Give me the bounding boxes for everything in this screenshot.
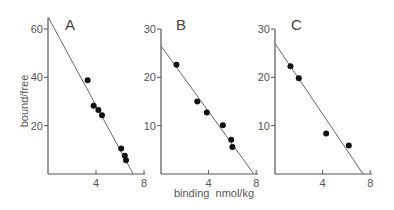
panel-a-x-tick-label: 4 <box>93 177 99 189</box>
y-axis-label: bound/free <box>18 75 30 128</box>
panel-c-x-tick-label: 8 <box>367 177 373 189</box>
panel-b-y-tick-label: 30 <box>144 23 156 35</box>
panel-a-y-tick-label: 60 <box>31 23 43 35</box>
panel-b-data-point <box>229 144 235 150</box>
panel-a-data-point <box>95 107 101 113</box>
panel-b-x-tick-label: 4 <box>206 177 212 189</box>
panel-b-data-point <box>194 99 200 105</box>
panel-c-y-tick-label: 10 <box>258 120 270 132</box>
panel-b-data-point <box>228 137 234 143</box>
panel-b-x-tick-label: 8 <box>253 177 259 189</box>
panel-c-data-point <box>287 63 293 69</box>
panel-a-data-point <box>123 157 129 163</box>
panel-c-x-tick-label: 4 <box>320 177 326 189</box>
panel-b-y-tick-label: 10 <box>144 120 156 132</box>
panel-b-data-point <box>173 62 179 68</box>
panel-a-x-tick-label: 8 <box>141 177 147 189</box>
panel-c-data-point <box>296 75 302 81</box>
panel-c-fit-line <box>275 44 363 175</box>
panel-a-y-tick-label: 40 <box>31 71 43 83</box>
panel-a-data-point <box>91 103 97 109</box>
panel-c-data-point <box>346 142 352 148</box>
panel-a-data-point <box>85 77 91 83</box>
panel-a-data-point <box>99 112 105 118</box>
x-axis-label: binding nmol/kg <box>174 187 254 199</box>
panel-b-data-point <box>220 122 226 128</box>
panel-a-data-point <box>118 145 124 151</box>
panel-c-y-tick-label: 30 <box>258 23 270 35</box>
panel-b-data-point <box>204 110 210 116</box>
panel-c-label: C <box>291 16 302 33</box>
panel-a-y-tick-label: 20 <box>31 120 43 132</box>
scatchard-plots: bound/free binding nmol/kg 20406048A1020… <box>0 0 394 210</box>
panel-b-label: B <box>176 16 186 33</box>
panel-c-data-point <box>323 130 329 136</box>
panel-a-label: A <box>65 16 75 33</box>
panel-c-y-tick-label: 20 <box>258 71 270 83</box>
panel-b-y-tick-label: 20 <box>144 71 156 83</box>
